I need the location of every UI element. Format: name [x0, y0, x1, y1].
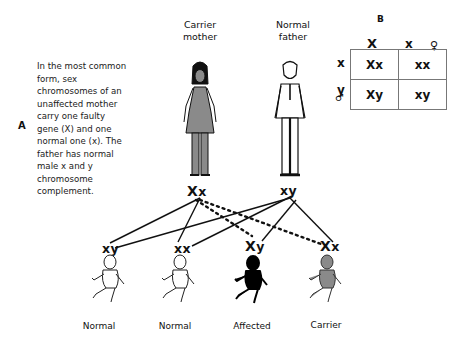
punnett-cell: Xy	[351, 80, 399, 110]
panel-b-label: B	[377, 14, 384, 24]
child-4-label: Carrier	[296, 320, 356, 330]
punnett-square: Xx xx Xy xy	[350, 49, 447, 110]
child-2-label: Normal	[145, 321, 205, 331]
child-3-label: Affected	[222, 321, 282, 331]
baby-carrier-icon	[309, 255, 341, 302]
baby-normal-1-icon	[92, 255, 124, 302]
baby-affected-icon	[235, 256, 267, 303]
punnett-cell: xy	[399, 80, 447, 110]
male-symbol-icon: ♂	[335, 92, 344, 103]
punnett-row-header-1: x	[337, 56, 345, 70]
punnett-cell: Xx	[351, 50, 399, 80]
child-1-label: Normal	[69, 321, 129, 331]
punnett-cell: xx	[399, 50, 447, 80]
baby-normal-2-icon	[162, 255, 194, 302]
